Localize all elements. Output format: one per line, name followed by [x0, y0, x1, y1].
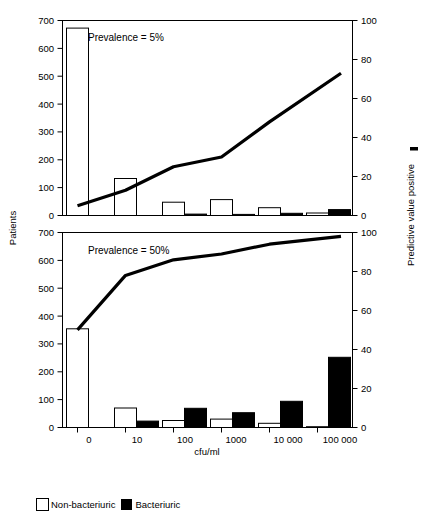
panel1-bar-bacteriuric-100000 — [329, 210, 351, 216]
panel2-bar-bacteriuric-10 — [137, 421, 159, 427]
panel1-ytick-400: 400 — [38, 99, 54, 110]
panel2-ytick-0: 0 — [49, 422, 54, 433]
xtick-label-100: 100 — [177, 434, 193, 445]
panel1-bar-nonbacteriuric-10000 — [259, 208, 281, 216]
panel1-bar-bacteriuric-10000 — [281, 213, 303, 215]
panel2-ytick-100: 100 — [38, 394, 54, 405]
y2-axis-label: Predictive value positive — [405, 164, 416, 266]
panel1-y2tick-100: 100 — [361, 15, 377, 26]
panel-prevalence-50: 700 600 500 400 300 200 100 0 100 80 60 … — [38, 227, 377, 433]
panel1-ytick-100: 100 — [38, 182, 54, 193]
panel1-bar-nonbacteriuric-1000 — [211, 200, 233, 216]
panel1-y2tick-0: 0 — [361, 210, 366, 221]
panel2-bar-nonbacteriuric-1000 — [211, 419, 233, 427]
panel1-y2tick-20: 20 — [361, 171, 372, 182]
panel1-plot-frame — [63, 21, 353, 216]
panel2-plot-frame — [63, 233, 353, 428]
panel2-bar-bacteriuric-10000 — [281, 401, 303, 427]
panel1-ytick-500: 500 — [38, 71, 54, 82]
panel1-y2tick-60: 60 — [361, 93, 372, 104]
panel2-ytick-600: 600 — [38, 255, 54, 266]
panel2-y2tick-100: 100 — [361, 227, 377, 238]
panel2-right-axis — [353, 233, 358, 428]
panel1-ytick-700: 700 — [38, 15, 54, 26]
panel2-y2tick-0: 0 — [361, 422, 366, 433]
xtick-label-0: 0 — [86, 434, 91, 445]
panel1-bar-nonbacteriuric-100 — [163, 202, 185, 215]
legend-label-bacteriuric: Bacteriuric — [135, 499, 180, 510]
panel2-bar-bacteriuric-100000 — [329, 357, 351, 427]
xtick-label-1000: 1000 — [225, 434, 246, 445]
legend-swatch-non-bacteriuric-icon — [36, 498, 49, 511]
panel2-bar-nonbacteriuric-10000 — [259, 423, 281, 427]
panel1-bar-nonbacteriuric-10 — [115, 179, 137, 216]
panel2-ytick-500: 500 — [38, 283, 54, 294]
panel2-bar-nonbacteriuric-10 — [115, 408, 137, 428]
xtick-label-10: 10 — [132, 434, 143, 445]
panel2-y2tick-40: 40 — [361, 344, 372, 355]
xtick-label-100000: 100 000 — [323, 434, 357, 445]
panel1-annotation: Prevalence = 5% — [88, 32, 164, 43]
panel1-bar-bacteriuric-100 — [185, 214, 207, 215]
panel1-bar-bacteriuric-1000 — [233, 214, 255, 215]
panel2-y2tick-60: 60 — [361, 305, 372, 316]
figure-container: 700 600 500 400 300 200 100 0 100 80 60 … — [0, 0, 427, 527]
legend-label-non-bacteriuric: Non-bacteriuric — [51, 499, 115, 510]
chart-svg: 700 600 500 400 300 200 100 0 100 80 60 … — [0, 0, 427, 527]
panel2-annotation: Prevalence = 50% — [88, 245, 170, 256]
panel2-y2tick-80: 80 — [361, 266, 372, 277]
panel1-ytick-300: 300 — [38, 126, 54, 137]
panel1-y2tick-40: 40 — [361, 132, 372, 143]
panel2-bar-nonbacteriuric-100 — [163, 421, 185, 428]
panel1-right-axis — [353, 21, 358, 216]
panel1-left-axis — [58, 21, 63, 216]
panel2-bar-nonbacteriuric-0 — [67, 329, 89, 428]
panel2-bar-nonbacteriuric-100000 — [307, 427, 329, 428]
panel1-ytick-200: 200 — [38, 154, 54, 165]
panel-prevalence-5: 700 600 500 400 300 200 100 0 100 80 60 … — [38, 15, 377, 221]
panel2-ytick-400: 400 — [38, 311, 54, 322]
predictive-value-line-marker-icon — [410, 147, 418, 151]
legend-swatch-bacteriuric-icon — [121, 499, 132, 510]
panel2-ytick-300: 300 — [38, 338, 54, 349]
panel1-bar-nonbacteriuric-0 — [67, 28, 89, 215]
panel2-y2tick-20: 20 — [361, 383, 372, 394]
panel2-ytick-700: 700 — [38, 227, 54, 238]
panel2-left-axis — [58, 233, 63, 428]
panel2-bar-bacteriuric-1000 — [233, 413, 255, 428]
xtick-label-10000: 10 000 — [273, 434, 302, 445]
x-axis — [78, 428, 318, 433]
panel2-bar-bacteriuric-100 — [185, 408, 207, 427]
panel2-ytick-200: 200 — [38, 366, 54, 377]
panel1-bar-nonbacteriuric-100000 — [307, 213, 329, 216]
panel1-y2tick-80: 80 — [361, 54, 372, 65]
y-axis-label: Patients — [7, 211, 18, 246]
panel1-ytick-600: 600 — [38, 43, 54, 54]
chart-legend: Non-bacteriuric Bacteriuric — [36, 498, 180, 511]
x-axis-label: cfu/ml — [194, 446, 219, 457]
panel1-ytick-0: 0 — [49, 210, 54, 221]
